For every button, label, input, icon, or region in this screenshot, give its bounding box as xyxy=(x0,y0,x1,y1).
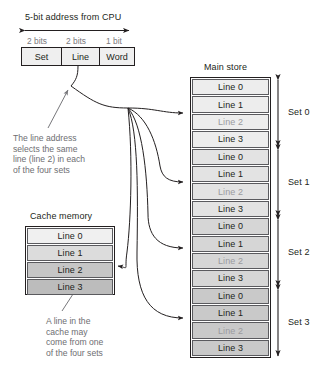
main-store-line-row-label: Line 1 xyxy=(218,100,243,110)
annotation-cache-source-row: cache may xyxy=(46,327,103,338)
main-store-line-row-label: Line 3 xyxy=(218,204,243,214)
address-field-set[interactable]: Set xyxy=(22,48,62,65)
main-store-line-row[interactable]: Line 0 xyxy=(192,79,269,95)
main-store-line-row-label: Line 0 xyxy=(218,152,243,162)
cache-line-row[interactable]: Line 2 xyxy=(27,262,113,278)
main-store-line-row-label: Line 2 xyxy=(218,256,243,266)
main-store-block: Line 0Line 1Line 2Line 3Line 0Line 1Line… xyxy=(190,77,271,358)
annotation-cache-source: A line in the cache may come from one of… xyxy=(46,316,103,358)
cache-mapping-diagram: 5-bit address from CPU 2 bits 2 bits 1 b… xyxy=(0,0,321,369)
main-store-line-row-label: Line 3 xyxy=(218,134,243,144)
main-store-line-row[interactable]: Line 3 xyxy=(192,201,269,217)
main-store-line-row[interactable]: Line 2 xyxy=(192,183,269,199)
set-label-2: Set 2 xyxy=(288,247,310,257)
annotation-line-select-row: The line address xyxy=(13,133,85,144)
annotation-cache-source-row: A line in the xyxy=(46,316,103,327)
annotation-cache-source-row: of the four sets xyxy=(46,348,103,359)
main-store-line-row-label: Line 0 xyxy=(218,221,243,231)
main-store-line-row-label: Line 2 xyxy=(218,326,243,336)
main-store-line-row-label: Line 1 xyxy=(218,169,243,179)
cache-line-row-label: Line 1 xyxy=(57,248,82,258)
main-store-line-row-label: Line 0 xyxy=(218,82,243,92)
annotation-line-select-row: of the four sets xyxy=(13,165,85,176)
main-store-line-row[interactable]: Line 0 xyxy=(192,149,269,165)
cache-line-row-label: Line 0 xyxy=(57,231,82,241)
annotation-line-select-row: selects the same xyxy=(13,144,85,155)
main-store-line-row[interactable]: Line 3 xyxy=(192,340,269,356)
main-store-line-row-label: Line 2 xyxy=(218,117,243,127)
annotation-line-select: The line address selects the same line (… xyxy=(13,133,85,175)
bits-label-set: 2 bits xyxy=(27,36,47,46)
main-store-title: Main store xyxy=(204,62,247,72)
main-store-line-row[interactable]: Line 2 xyxy=(192,114,269,130)
main-store-line-row-label: Line 3 xyxy=(218,343,243,353)
cache-memory-title: Cache memory xyxy=(30,211,92,221)
address-field-bar: Set Line Word xyxy=(21,47,135,66)
cache-line-row[interactable]: Line 3 xyxy=(27,279,113,295)
main-store-line-row[interactable]: Line 1 xyxy=(192,305,269,321)
address-header-label: 5-bit address from CPU xyxy=(25,12,121,22)
main-store-line-row[interactable]: Line 3 xyxy=(192,270,269,286)
set-label-3: Set 3 xyxy=(288,317,310,327)
main-store-line-row[interactable]: Line 3 xyxy=(192,131,269,147)
main-store-line-row[interactable]: Line 2 xyxy=(192,253,269,269)
annotation-line-select-row: line (line 2) in each xyxy=(13,154,85,165)
main-store-line-row-label: Line 1 xyxy=(218,239,243,249)
main-store-line-row[interactable]: Line 0 xyxy=(192,218,269,234)
cache-line-row-label: Line 3 xyxy=(57,282,82,292)
main-store-line-row[interactable]: Line 1 xyxy=(192,236,269,252)
main-store-line-row-label: Line 3 xyxy=(218,273,243,283)
set-label-1: Set 1 xyxy=(288,177,310,187)
main-store-line-row[interactable]: Line 0 xyxy=(192,288,269,304)
cache-memory-block: Line 0Line 1Line 2Line 3 xyxy=(25,226,115,295)
cache-line-row[interactable]: Line 1 xyxy=(27,245,113,261)
main-store-line-row[interactable]: Line 1 xyxy=(192,96,269,112)
set-label-0: Set 0 xyxy=(288,107,310,117)
main-store-line-row[interactable]: Line 1 xyxy=(192,166,269,182)
line-field-stem xyxy=(71,66,78,86)
cache-line-row[interactable]: Line 0 xyxy=(27,228,113,244)
main-store-line-row-label: Line 2 xyxy=(218,187,243,197)
annotation-cache-source-row: come from one xyxy=(46,337,103,348)
address-field-line[interactable]: Line xyxy=(62,48,100,65)
main-store-line-row[interactable]: Line 2 xyxy=(192,322,269,338)
main-store-line-row-label: Line 0 xyxy=(218,291,243,301)
address-field-word[interactable]: Word xyxy=(100,48,134,65)
bits-label-word: 1 bit xyxy=(106,36,122,46)
cache-line-row-label: Line 2 xyxy=(57,265,82,275)
bits-label-line: 2 bits xyxy=(66,36,86,46)
main-store-line-row-label: Line 1 xyxy=(218,308,243,318)
